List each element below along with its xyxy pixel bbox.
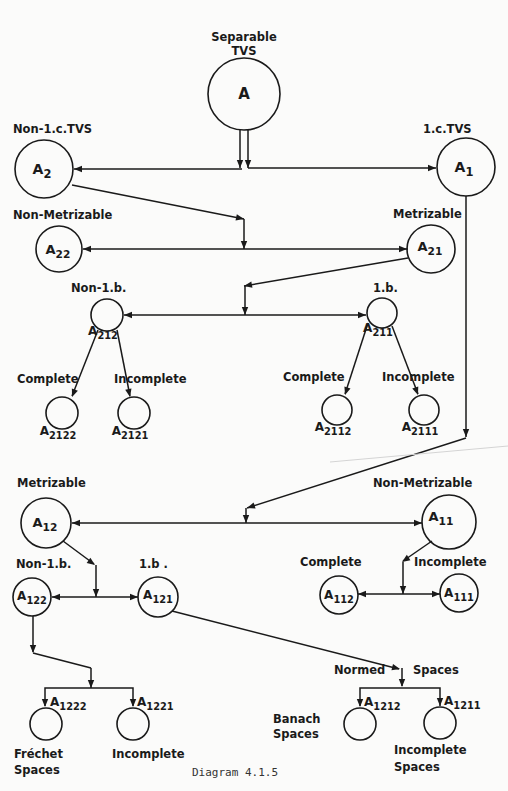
- label-frechet-spaces: Spaces: [14, 763, 60, 777]
- label-complete-3: Complete: [300, 555, 362, 569]
- label-incomplete-2: Incomplete: [382, 370, 455, 384]
- arrowhead-icon: [243, 515, 249, 523]
- node-a12: A12: [21, 498, 71, 548]
- node-label: A1212: [364, 695, 401, 712]
- arrowhead-icon: [344, 386, 350, 395]
- label-metrizable-top: Metrizable: [393, 207, 462, 221]
- node-a211: A211: [363, 298, 397, 338]
- node-circle: [322, 395, 352, 425]
- edge-line: [117, 330, 130, 396]
- arrowhead-icon: [88, 680, 94, 688]
- label-lc-tvs: 1.c.TVS: [423, 122, 472, 136]
- arrowhead-icon: [42, 699, 48, 707]
- arrowhead-icon: [52, 594, 60, 600]
- node-label: A122: [17, 589, 47, 606]
- node-circle: [117, 708, 149, 740]
- label-banach: Banach: [273, 712, 320, 726]
- node-label: A112: [324, 588, 354, 605]
- node-a1221: A1221: [117, 695, 174, 740]
- label-complete-1: Complete: [17, 372, 79, 386]
- arrowhead-icon: [241, 241, 247, 249]
- label-spaces: Spaces: [413, 663, 459, 677]
- node-a1211: A1211: [424, 694, 481, 739]
- arrowhead-icon: [358, 591, 366, 597]
- node-circle: [30, 708, 62, 740]
- node-a2122: A2122: [40, 397, 78, 441]
- node-a11: A11: [422, 495, 476, 549]
- node-a2111: A2111: [402, 395, 439, 437]
- arrowhead-icon: [130, 699, 136, 707]
- arrowhead-icon: [437, 698, 443, 706]
- node-a2121: A2121: [112, 397, 150, 441]
- arrowhead-icon: [463, 429, 469, 437]
- node-label: A1: [455, 159, 474, 179]
- arrowhead-icon: [242, 307, 248, 315]
- label-incomplete-3: Incomplete: [414, 555, 487, 569]
- label-banach-spaces: Spaces: [273, 727, 319, 741]
- label-non-metrizable-bottom: Non-Metrizable: [373, 476, 472, 490]
- node-a1222: A1222: [30, 695, 87, 740]
- arrowhead-icon: [130, 594, 138, 600]
- edge-line: [72, 330, 98, 396]
- arrowhead-icon: [72, 388, 78, 397]
- label-normed: Normed: [334, 663, 385, 677]
- nodes-layer: AA2A1A22A21A212A211A2122A2121A2112A2111A…: [13, 58, 495, 740]
- arrowhead-icon: [412, 386, 418, 395]
- edge-line: [247, 438, 466, 508]
- arrowhead-icon: [83, 246, 91, 252]
- node-label: A212: [88, 324, 118, 341]
- node-circle: [424, 707, 456, 739]
- label-metrizable-bottom: Metrizable: [17, 476, 86, 490]
- node-a111: A111: [440, 574, 478, 612]
- node-a212: A212: [88, 299, 123, 341]
- node-a2112: A2112: [315, 395, 352, 437]
- node-label: A1221: [137, 695, 174, 712]
- node-label: A12: [33, 515, 58, 534]
- arrowhead-icon: [72, 520, 80, 526]
- node-a: A: [208, 58, 280, 130]
- arrowhead-icon: [357, 699, 363, 707]
- node-a21: A21: [407, 225, 455, 273]
- arrowhead-icon: [93, 589, 99, 597]
- label-complete-2: Complete: [283, 370, 345, 384]
- label-tvs: TVS: [231, 44, 256, 58]
- arrowhead-icon: [414, 520, 422, 526]
- arrowhead-icon: [237, 160, 243, 168]
- arrowhead-icon: [30, 645, 36, 653]
- node-label: A22: [46, 242, 71, 261]
- node-a2: A2: [15, 140, 73, 198]
- label-incomplete-5: Incomplete: [394, 743, 467, 757]
- node-label: A: [238, 85, 250, 103]
- scan-artifact-line: [330, 446, 508, 462]
- node-circle: [409, 395, 439, 425]
- arrowhead-icon: [236, 214, 244, 220]
- node-a112: A112: [320, 576, 358, 614]
- arrowhead-icon: [124, 312, 132, 318]
- edge-line: [172, 611, 399, 669]
- node-label: A121: [143, 588, 173, 605]
- node-a22: A22: [36, 226, 82, 272]
- arrowhead-icon: [245, 160, 251, 168]
- label-incomplete-5-spaces: Spaces: [394, 760, 440, 774]
- tvs-classification-diagram: AA2A1A22A21A212A211A2122A2121A2112A2111A…: [0, 0, 508, 791]
- node-label: A2: [33, 161, 52, 181]
- label-non-lc-tvs: Non-1.c.TVS: [13, 122, 92, 136]
- edge-line: [33, 653, 91, 668]
- diagram-caption: Diagram 4.1.5: [192, 766, 278, 779]
- arrowhead-icon: [428, 165, 436, 171]
- label-non-metrizable-top: Non-Metrizable: [13, 208, 112, 222]
- node-label: A11: [429, 509, 454, 528]
- label-lb-top: 1.b.: [373, 281, 398, 295]
- node-label: A211: [363, 321, 393, 338]
- label-incomplete-4: Incomplete: [112, 747, 185, 761]
- arrowhead-icon: [432, 591, 440, 597]
- label-frechet: Fréchet: [14, 747, 63, 761]
- node-a122: A122: [13, 578, 51, 616]
- arrowhead-icon: [399, 679, 405, 687]
- label-lb-bottom: 1.b .: [139, 557, 168, 571]
- node-label: A1211: [444, 694, 481, 711]
- arrowhead-icon: [74, 166, 82, 172]
- arrowhead-icon: [358, 312, 366, 318]
- node-label: A111: [444, 586, 474, 603]
- node-circle: [118, 397, 150, 429]
